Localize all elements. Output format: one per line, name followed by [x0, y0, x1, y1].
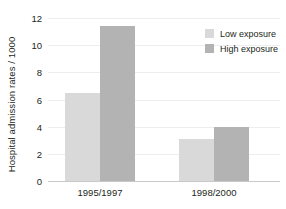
legend-label: Low exposure [220, 29, 276, 39]
gridline [48, 72, 280, 73]
gridline [48, 181, 280, 182]
legend-item: High exposure [205, 41, 278, 56]
y-axis-tick-label: 10 [31, 40, 42, 51]
bar [65, 93, 100, 181]
y-axis-tick-label: 2 [37, 148, 42, 159]
bar [179, 139, 214, 181]
bar [100, 26, 135, 181]
x-axis-category-label: 1998/2000 [192, 187, 237, 198]
bar [214, 127, 249, 181]
y-axis-title: Hospital admission rates / 1000 [0, 0, 22, 209]
legend: Low exposureHigh exposure [205, 26, 278, 56]
legend-swatch-icon [205, 44, 214, 53]
legend-swatch-icon [205, 29, 214, 38]
y-axis-tick-label: 6 [37, 94, 42, 105]
y-axis-tick-label: 4 [37, 121, 42, 132]
legend-item: Low exposure [205, 26, 278, 41]
y-axis-tick-label: 8 [37, 67, 42, 78]
legend-label: High exposure [220, 44, 278, 54]
gridline [48, 18, 280, 19]
x-axis-category-label: 1995/1997 [78, 187, 123, 198]
y-axis-tick-label: 12 [31, 13, 42, 24]
bar-chart: Hospital admission rates / 1000 02468101… [0, 0, 286, 209]
y-axis-tick-label: 0 [37, 176, 42, 187]
